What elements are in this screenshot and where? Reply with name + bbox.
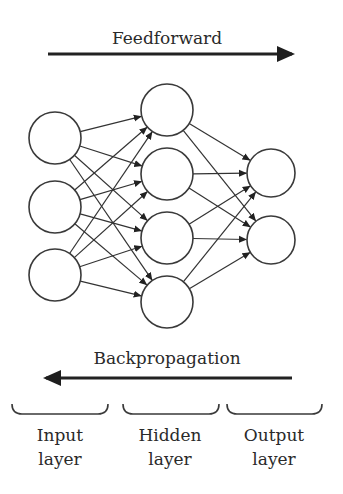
hidden-neuron-3: [141, 212, 193, 264]
hidden-layer-bracket: [123, 404, 219, 414]
feedforward-label: Feedforward: [112, 28, 222, 48]
output-neuron-2: [247, 216, 295, 264]
edge-input2-to-hidden1: [75, 127, 147, 190]
hidden-layer-label-line1: Hidden: [138, 425, 201, 445]
edge-input3-to-hidden4: [80, 281, 141, 296]
input-layer-bracket: [12, 404, 108, 414]
edge-hidden4-to-output2: [189, 253, 250, 289]
layer-brackets: [12, 404, 322, 414]
edge-input2-to-hidden4: [75, 224, 147, 285]
edge-input1-to-hidden2: [80, 146, 142, 166]
output-layer-bracket: [227, 404, 322, 414]
edge-input2-to-hidden3: [80, 214, 141, 231]
edge-hidden1-to-output1: [189, 124, 250, 161]
edge-input2-to-hidden2: [80, 182, 142, 200]
edge-input3-to-hidden1: [70, 132, 153, 254]
input-neuron-3: [29, 249, 81, 301]
backpropagation-label: Backpropagation: [93, 348, 240, 368]
hidden-layer-label-line2: layer: [148, 449, 192, 469]
hidden-neuron-1: [141, 84, 193, 136]
edge-input1-to-hidden3: [74, 155, 147, 220]
edge-hidden2-to-output1: [193, 173, 247, 174]
edge-hidden3-to-output2: [193, 239, 247, 240]
edge-hidden2-to-output2: [189, 188, 250, 227]
output-layer-label-line1: Output: [244, 425, 305, 445]
neural-network-diagram: Feedforward Backpropagation Input layer …: [0, 0, 343, 494]
neurons: [29, 84, 295, 328]
input-neuron-1: [29, 112, 81, 164]
edge-input1-to-hidden1: [80, 116, 141, 131]
hidden-neuron-2: [141, 148, 193, 200]
input-neuron-2: [29, 181, 81, 233]
connections: [70, 116, 256, 295]
input-layer-label-line1: Input: [37, 425, 83, 445]
edge-input3-to-hidden3: [80, 246, 142, 266]
edge-hidden3-to-output1: [189, 186, 250, 224]
edge-input1-to-hidden4: [70, 160, 152, 281]
hidden-neuron-4: [141, 276, 193, 328]
output-neuron-1: [247, 149, 295, 197]
output-layer-label-line2: layer: [252, 449, 296, 469]
input-layer-label-line2: layer: [38, 449, 82, 469]
